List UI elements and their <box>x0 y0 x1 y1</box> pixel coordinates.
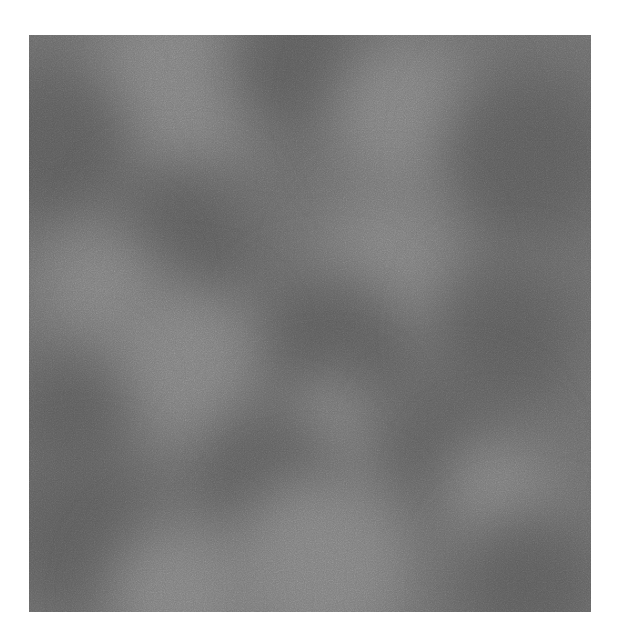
dark-blob <box>439 265 579 405</box>
noise-texture <box>29 35 591 612</box>
